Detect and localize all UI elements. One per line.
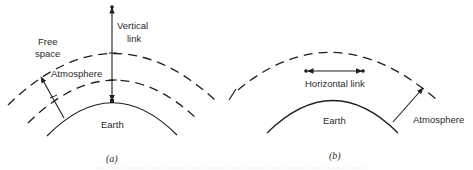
label-earth-b: Earth bbox=[323, 115, 346, 126]
label-atmosphere-a: Atmosphere bbox=[51, 68, 102, 79]
vertical-link-ground-endpoint bbox=[110, 99, 114, 103]
horizontal-link-left-endpoint bbox=[304, 69, 308, 73]
panel-divider-dash bbox=[229, 89, 236, 100]
label-horizontal-link: Horizontal link bbox=[305, 78, 365, 89]
atmospheric-path-diagram: Free space Vertical link Atmosphere Eart… bbox=[0, 0, 473, 170]
atmosphere-boundary-arc-b bbox=[238, 52, 437, 100]
vertical-link-top-endpoint bbox=[110, 5, 114, 9]
caption-b: (b) bbox=[329, 150, 341, 162]
label-earth-a: Earth bbox=[101, 119, 124, 130]
horizontal-link-right-endpoint bbox=[361, 69, 365, 73]
caption-a: (a) bbox=[106, 153, 118, 165]
label-vertical-link-line2: link bbox=[127, 33, 142, 44]
label-free-space-line1: Free bbox=[38, 36, 58, 47]
panel-a: Free space Vertical link Atmosphere Eart… bbox=[8, 5, 216, 165]
label-vertical-link-line1: Vertical bbox=[117, 20, 148, 31]
atmosphere-thickness-arrow bbox=[41, 77, 64, 118]
label-atmosphere-b: Atmosphere bbox=[413, 114, 464, 125]
panel-b: Horizontal link Earth Atmosphere (b) bbox=[238, 52, 464, 162]
label-free-space-line2: space bbox=[35, 48, 60, 59]
horizontal-link bbox=[304, 69, 365, 73]
